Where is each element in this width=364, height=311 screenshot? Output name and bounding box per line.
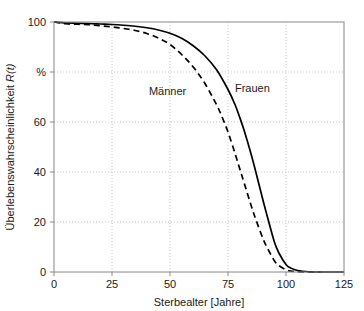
y-tick-label: % — [36, 66, 46, 78]
y-axis-title: Überlebenswahrscheinlichkeit R(t) — [4, 63, 16, 230]
x-axis-title: Sterbealter [Jahre] — [154, 296, 245, 308]
y-tick-label: 100 — [28, 16, 46, 28]
y-tick-label: 60 — [34, 116, 46, 128]
chart-figure: 0255075100125 0204060%100 FrauenMänner S… — [0, 0, 364, 311]
y-tick-label: 20 — [34, 216, 46, 228]
x-tick-label: 0 — [51, 278, 57, 290]
series-label-männer: Männer — [149, 85, 187, 97]
x-tick-label: 100 — [277, 278, 295, 290]
x-tick-label: 50 — [164, 278, 176, 290]
y-axis-title-text: Überlebenswahrscheinlichkeit R(t) — [4, 63, 16, 230]
y-tick-label: 0 — [40, 266, 46, 278]
x-tick-label: 125 — [335, 278, 353, 290]
chart-background — [0, 0, 364, 311]
series-label-frauen: Frauen — [235, 82, 270, 94]
y-axis-title-main: Überlebenswahrscheinlichkeit — [4, 82, 16, 231]
y-tick-label: 40 — [34, 166, 46, 178]
x-tick-label: 25 — [106, 278, 118, 290]
survival-probability-chart: 0255075100125 0204060%100 FrauenMänner S… — [0, 0, 364, 311]
x-tick-label: 75 — [222, 278, 234, 290]
y-axis-title-symbol: R(t) — [4, 63, 16, 82]
